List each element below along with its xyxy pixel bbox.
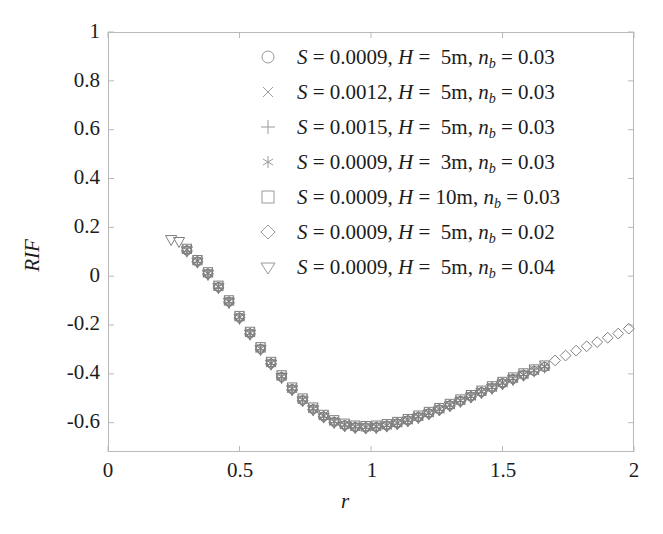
legend-item[interactable]: S = 0.0009, H = 3m, nb = 0.03 [255, 149, 655, 184]
xtick-label: 1.5 [473, 460, 533, 481]
legend-item[interactable]: S = 0.0009, H = 5m, nb = 0.04 [255, 254, 655, 289]
legend-label: S = 0.0012, H = 5m, nb = 0.03 [297, 78, 555, 113]
ytick-label: -0.2 [30, 313, 100, 334]
legend-item[interactable]: S = 0.0009, H = 10m, nb = 0.03 [255, 184, 655, 219]
figure-rif-vs-r: 1 0.8 0.6 0.4 0.2 0 -0.2 -0.4 -0.6 0 0.5… [0, 0, 663, 534]
legend-label: S = 0.0009, H = 3m, nb = 0.03 [297, 148, 555, 183]
legend: S = 0.0009, H = 5m, nb = 0.03 S = 0.0012… [255, 44, 655, 289]
xtick-label: 0.5 [210, 460, 270, 481]
y-axis-title: RIF [20, 239, 45, 272]
legend-label: S = 0.0009, H = 5m, nb = 0.03 [297, 43, 555, 78]
legend-marker-diamond [255, 219, 281, 245]
legend-marker-asterisk [255, 149, 281, 175]
legend-item[interactable]: S = 0.0012, H = 5m, nb = 0.03 [255, 79, 655, 114]
legend-item[interactable]: S = 0.0009, H = 5m, nb = 0.02 [255, 219, 655, 254]
ytick-label: 0.4 [30, 167, 100, 188]
legend-label: S = 0.0009, H = 5m, nb = 0.04 [297, 253, 555, 288]
legend-item[interactable]: S = 0.0015, H = 5m, nb = 0.03 [255, 114, 655, 149]
xtick-label: 1 [342, 460, 402, 481]
ytick-label: 0.8 [30, 70, 100, 91]
legend-marker-square [255, 184, 281, 210]
legend-label: S = 0.0015, H = 5m, nb = 0.03 [297, 113, 555, 148]
xtick-label: 0 [78, 460, 138, 481]
legend-label: S = 0.0009, H = 5m, nb = 0.02 [297, 218, 555, 253]
ytick-label: -0.6 [30, 411, 100, 432]
ytick-label: 0.2 [30, 216, 100, 237]
legend-marker-triangle-down [255, 254, 281, 280]
legend-marker-circle [255, 44, 281, 70]
ytick-label: 1 [30, 21, 100, 42]
ytick-label: 0.6 [30, 118, 100, 139]
ytick-label: -0.4 [30, 362, 100, 383]
x-axis-title: r [341, 489, 349, 514]
xtick-label: 2 [604, 460, 663, 481]
legend-item[interactable]: S = 0.0009, H = 5m, nb = 0.03 [255, 44, 655, 79]
legend-marker-plus [255, 114, 281, 140]
legend-label: S = 0.0009, H = 10m, nb = 0.03 [297, 183, 560, 218]
legend-marker-cross [255, 79, 281, 105]
